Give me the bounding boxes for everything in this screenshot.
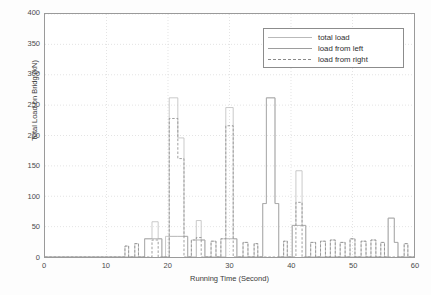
x-tick-label: 0: [29, 262, 59, 270]
legend-item: total load: [268, 32, 399, 43]
legend-line-sample: [268, 48, 312, 49]
legend-item: load from right: [268, 54, 399, 65]
y-tick-label: 100: [0, 193, 40, 201]
y-axis-title: Total Load on Bridg (kN): [30, 21, 39, 181]
x-axis-title: Running Time (Second): [44, 274, 415, 283]
x-tick-label: 40: [276, 262, 306, 270]
legend-label: load from left: [318, 43, 363, 54]
x-tick-label: 60: [400, 262, 430, 270]
chart-figure: 050100150200250300350400 Total Load on B…: [0, 0, 431, 295]
legend-line-sample: [268, 59, 312, 60]
legend: total loadload from leftload from right: [263, 28, 404, 68]
x-tick-label: 10: [91, 262, 121, 270]
y-tick-label: 0: [0, 254, 40, 262]
series-load-from-right: [45, 118, 414, 257]
series-load-from-left: [45, 98, 414, 257]
x-tick-label: 20: [153, 262, 183, 270]
y-tick-label: 400: [0, 9, 40, 17]
legend-item: load from left: [268, 43, 399, 54]
legend-label: load from right: [318, 54, 368, 65]
legend-line-sample: [268, 37, 312, 38]
legend-label: total load: [318, 32, 350, 43]
x-tick-label: 30: [215, 262, 245, 270]
series-total-load: [45, 98, 414, 257]
y-tick-label: 50: [0, 223, 40, 231]
x-tick-label: 50: [338, 262, 368, 270]
